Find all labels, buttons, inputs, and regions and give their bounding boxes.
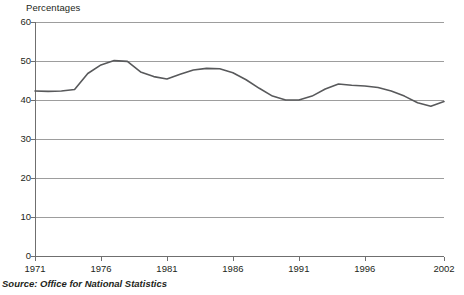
- y-tick-label: 20: [5, 173, 31, 183]
- y-tick-label: 10: [5, 212, 31, 222]
- x-tick-mark: [299, 257, 300, 261]
- y-tick-mark: [31, 178, 35, 179]
- y-tick-mark: [31, 61, 35, 62]
- x-tick-mark: [167, 257, 168, 261]
- x-tick-label: 1971: [24, 263, 45, 274]
- plot-area: [35, 22, 444, 256]
- source-note: Source: Office for National Statistics: [2, 278, 167, 290]
- units-label: Percentages: [26, 2, 80, 14]
- y-tick-mark: [31, 100, 35, 101]
- x-tick-label: 1996: [354, 263, 375, 274]
- y-tick-label: 60: [5, 17, 31, 27]
- x-tick-label: 1976: [90, 263, 111, 274]
- y-tick-mark: [31, 139, 35, 140]
- gridline: [35, 217, 444, 218]
- chart-figure: Percentages 0102030405060 19711976198119…: [0, 0, 464, 295]
- y-tick-label: 30: [5, 134, 31, 144]
- gridline: [35, 178, 444, 179]
- x-tick-label: 1991: [288, 263, 309, 274]
- y-tick-label: 40: [5, 95, 31, 105]
- y-tick-label: 0: [5, 251, 31, 261]
- x-tick-label: 2002: [433, 263, 454, 274]
- y-tick-mark: [31, 22, 35, 23]
- y-axis-ticks: 0102030405060: [0, 0, 31, 295]
- y-tick-label: 50: [5, 56, 31, 66]
- x-tick-mark: [444, 257, 445, 261]
- y-tick-mark: [31, 217, 35, 218]
- x-tick-label: 1986: [222, 263, 243, 274]
- gridline: [35, 100, 444, 101]
- gridline: [35, 139, 444, 140]
- gridline: [35, 22, 444, 23]
- x-axis-line: [35, 256, 444, 257]
- x-tick-mark: [365, 257, 366, 261]
- x-tick-mark: [101, 257, 102, 261]
- x-tick-label: 1981: [156, 263, 177, 274]
- x-tick-mark: [233, 257, 234, 261]
- gridline: [35, 61, 444, 62]
- x-tick-mark: [35, 257, 36, 261]
- y-axis-line: [35, 22, 36, 257]
